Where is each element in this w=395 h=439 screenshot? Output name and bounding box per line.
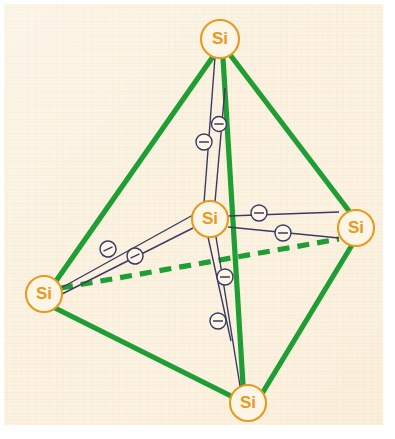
electron-top-2: [212, 117, 227, 132]
si-bottom: Si: [230, 385, 266, 421]
si-top: Si: [201, 20, 239, 58]
atom-label: Si: [348, 218, 364, 237]
electron-right-2: [275, 225, 291, 241]
electron-bottom-1: [217, 269, 233, 285]
electron-right-1: [251, 205, 267, 221]
si-left: Si: [26, 276, 62, 312]
diagram-canvas: SiSiSiSiSi: [0, 0, 395, 439]
si-center: Si: [192, 201, 228, 237]
atom-label: Si: [212, 29, 228, 48]
atom-label: Si: [202, 209, 218, 228]
atom-label: Si: [36, 284, 52, 303]
silicon-tetrahedron-figure: SiSiSiSiSi: [0, 0, 395, 439]
electron-top-1: [196, 134, 212, 150]
si-right: Si: [338, 210, 374, 246]
electron-bottom-2: [210, 313, 226, 329]
atom-label: Si: [240, 393, 256, 412]
